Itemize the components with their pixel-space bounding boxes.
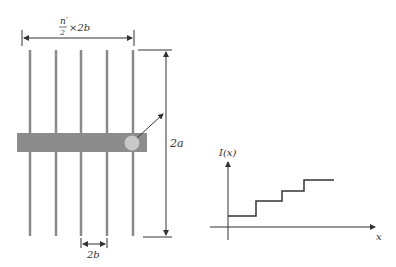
- x-axis-label: x: [376, 231, 382, 242]
- staircase-curve: [228, 180, 334, 216]
- width-dimension: n′ 2 ×2b: [22, 16, 134, 46]
- height-label: 2a: [169, 137, 184, 150]
- spacing-label: 2b: [86, 249, 100, 260]
- y-axis-label: I(x): [218, 147, 236, 158]
- width-label-den: 2: [59, 28, 65, 37]
- width-label-num: n′: [60, 16, 68, 26]
- diagram-canvas: n′ 2 ×2b 2a 2b I(x) x: [0, 0, 396, 267]
- width-label-rest: ×2b: [69, 22, 90, 33]
- spot-arrow: [137, 114, 163, 138]
- intensity-graph: I(x) x: [210, 147, 382, 242]
- spacing-dimension: 2b: [81, 238, 107, 260]
